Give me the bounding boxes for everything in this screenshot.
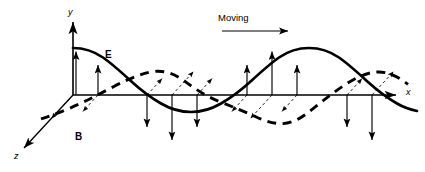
moving-label: Moving [218,13,249,23]
x-axis-label: x [406,88,411,97]
axis-group [24,22,396,148]
e-field-curve [73,48,417,112]
b-arrow [282,95,297,111]
em-wave-figure: y x z E B Moving [0,0,425,172]
magnetic-field-label: B [75,132,82,142]
b-arrow [147,79,162,95]
b-arrow [372,72,394,95]
b-field-group [41,71,408,123]
y-axis-label: y [68,8,73,17]
e-field-group [73,48,417,140]
electric-field-label: E [105,50,112,60]
em-wave-svg [0,0,425,172]
z-axis-label: z [14,152,19,161]
b-field-curve [41,71,408,123]
